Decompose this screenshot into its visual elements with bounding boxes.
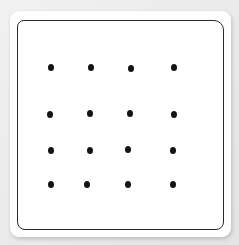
grid-dot	[84, 181, 90, 188]
grid-dot	[48, 64, 54, 71]
grid-dot	[48, 147, 54, 154]
grid-dot	[125, 181, 131, 188]
grid-dot	[88, 64, 94, 71]
card-border-frame	[17, 20, 224, 230]
grid-dot	[170, 147, 176, 154]
grid-dot	[87, 147, 93, 154]
grid-dot	[171, 111, 177, 118]
grid-dot	[171, 64, 177, 71]
grid-dot	[48, 181, 54, 188]
grid-dot	[87, 110, 93, 117]
grid-dot	[170, 181, 176, 188]
grid-dot	[127, 110, 133, 117]
grid-dot	[125, 146, 131, 153]
grid-dot	[128, 65, 134, 72]
grid-dot	[47, 111, 53, 118]
